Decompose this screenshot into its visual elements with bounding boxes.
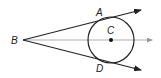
diagram-canvas: B A C D (0, 0, 161, 78)
ray-ba (23, 10, 141, 40)
label-c: C (107, 25, 115, 36)
label-b: B (11, 35, 18, 46)
center-point-c (109, 38, 113, 42)
label-a: A (95, 7, 103, 18)
label-d: D (96, 63, 103, 74)
ray-bd (23, 40, 141, 70)
tangent-diagram: B A C D (0, 0, 161, 78)
